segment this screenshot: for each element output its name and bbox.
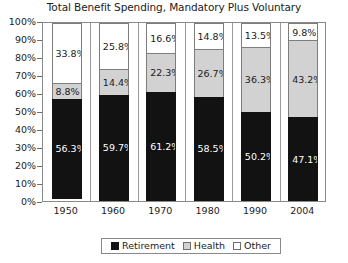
x-axis-tick-label: 2004 <box>279 205 326 217</box>
bar-segment-other[interactable]: 13.5% <box>241 23 271 47</box>
bar-segment-value-label: 13.5% <box>242 30 271 41</box>
bar-slot: 13.5%36.3%50.2% <box>232 23 279 201</box>
y-axis: 0%10%20%30%40%50%60%70%80%90%100% <box>0 22 36 202</box>
stacked-bar-chart: Total Benefit Spending, Mandatory Plus V… <box>0 0 348 263</box>
y-axis-tick-label: 40% <box>0 125 36 135</box>
plot-area: 33.8%8.8%56.3%25.8%14.4%59.7%16.6%22.3%6… <box>42 22 326 202</box>
bar-segment-other[interactable]: 33.8% <box>52 23 82 83</box>
chart-title: Total Benefit Spending, Mandatory Plus V… <box>0 1 348 13</box>
bar-segment-other[interactable]: 9.8% <box>288 23 318 40</box>
x-axis: 195019601970198019902004 <box>42 205 326 221</box>
x-axis-tick-label: 1950 <box>42 205 89 217</box>
y-axis-tick-label: 70% <box>0 71 36 81</box>
stacked-bar[interactable]: 33.8%8.8%56.3% <box>52 23 82 201</box>
bar-segment-retirement[interactable]: 58.5% <box>194 97 224 201</box>
bar-segment-retirement[interactable]: 59.7% <box>99 95 129 201</box>
chart-legend: RetirementHealthOther <box>101 238 281 254</box>
y-axis-tick-mark <box>37 202 42 203</box>
x-axis-tick-label: 1970 <box>137 205 184 217</box>
bar-segment-value-label: 14.4% <box>100 77 129 88</box>
bar-segment-health[interactable]: 36.3% <box>241 47 271 112</box>
bar-segment-retirement[interactable]: 61.2% <box>146 92 176 201</box>
bar-segment-retirement[interactable]: 50.2% <box>241 112 271 201</box>
bar-segment-value-label: 14.8% <box>195 31 224 42</box>
stacked-bar[interactable]: 16.6%22.3%61.2% <box>146 23 176 201</box>
legend-item-retirement[interactable]: Retirement <box>111 241 175 251</box>
bar-segment-retirement[interactable]: 56.3% <box>52 99 82 199</box>
bar-segment-value-label: 26.7% <box>195 68 224 79</box>
legend-swatch-health-icon <box>183 242 191 250</box>
stacked-bar[interactable]: 14.8%26.7%58.5% <box>194 23 224 201</box>
bar-segment-value-label: 9.8% <box>289 27 316 38</box>
y-axis-tick-label: 100% <box>0 17 36 27</box>
legend-label: Retirement <box>122 241 175 251</box>
bar-segment-health[interactable]: 14.4% <box>99 69 129 95</box>
bar-segment-health[interactable]: 22.3% <box>146 53 176 93</box>
legend-swatch-other-icon <box>233 242 241 250</box>
x-axis-tick-label: 1960 <box>89 205 136 217</box>
bar-segment-value-label: 43.2% <box>289 74 318 85</box>
y-axis-tick-label: 30% <box>0 143 36 153</box>
legend-label: Health <box>194 241 225 251</box>
stacked-bar[interactable]: 13.5%36.3%50.2% <box>241 23 271 201</box>
legend-label: Other <box>244 241 271 251</box>
bar-slot: 16.6%22.3%61.2% <box>138 23 185 201</box>
y-axis-tick-label: 90% <box>0 35 36 45</box>
bar-segment-other[interactable]: 14.8% <box>194 23 224 49</box>
bar-slot: 9.8%43.2%47.1% <box>280 23 327 201</box>
x-axis-tick-label: 1990 <box>231 205 278 217</box>
bar-segment-value-label: 59.7% <box>100 142 129 153</box>
legend-item-other[interactable]: Other <box>233 241 271 251</box>
legend-item-health[interactable]: Health <box>183 241 225 251</box>
bar-segment-other[interactable]: 25.8% <box>99 23 129 69</box>
x-axis-tick-label: 1980 <box>184 205 231 217</box>
y-axis-tick-label: 10% <box>0 179 36 189</box>
bar-segment-value-label: 61.2% <box>147 141 176 152</box>
stacked-bar[interactable]: 9.8%43.2%47.1% <box>288 23 318 201</box>
stacked-bar[interactable]: 25.8%14.4%59.7% <box>99 23 129 201</box>
y-axis-tick-label: 60% <box>0 89 36 99</box>
bar-segment-value-label: 25.8% <box>100 41 129 52</box>
y-axis-tick-label: 50% <box>0 107 36 117</box>
bar-segment-health[interactable]: 8.8% <box>52 83 82 99</box>
y-axis-tick-label: 20% <box>0 161 36 171</box>
bar-segment-health[interactable]: 43.2% <box>288 40 318 117</box>
bar-slot: 25.8%14.4%59.7% <box>90 23 137 201</box>
bar-segment-value-label: 22.3% <box>147 67 176 78</box>
bar-slot: 33.8%8.8%56.3% <box>43 23 90 201</box>
bar-segment-value-label: 33.8% <box>53 48 82 59</box>
bar-segment-other[interactable]: 16.6% <box>146 23 176 53</box>
bar-slot: 14.8%26.7%58.5% <box>185 23 232 201</box>
y-axis-tick-label: 0% <box>0 197 36 207</box>
bar-segment-value-label: 56.3% <box>53 143 82 154</box>
bar-segment-retirement[interactable]: 47.1% <box>288 117 318 201</box>
bar-segment-value-label: 58.5% <box>195 143 224 154</box>
bar-segment-value-label: 47.1% <box>289 154 318 165</box>
bar-segment-value-label: 36.3% <box>242 74 271 85</box>
bar-segment-health[interactable]: 26.7% <box>194 49 224 97</box>
legend-swatch-retirement-icon <box>111 242 119 250</box>
y-axis-tick-label: 80% <box>0 53 36 63</box>
bar-segment-value-label: 50.2% <box>242 151 271 162</box>
bar-segment-value-label: 8.8% <box>53 86 80 97</box>
bar-segment-value-label: 16.6% <box>147 33 176 44</box>
